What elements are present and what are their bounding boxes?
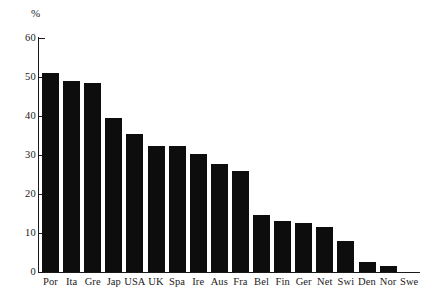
bar-ire [190, 154, 207, 272]
bar-net [316, 227, 333, 272]
y-axis-tick [39, 38, 45, 39]
y-axis-tick-label: 10 [6, 228, 36, 239]
y-axis-tick-label: 20 [6, 189, 36, 200]
plot-area: 0102030405060 PorItaGreJapUSAUKSpaIreAus… [0, 0, 430, 300]
y-axis-tick-label: 30 [6, 150, 36, 161]
bar-bel [253, 215, 270, 272]
bar-gre [84, 83, 101, 272]
y-axis-tick-label: 40 [6, 111, 36, 122]
bar-chart: % 0102030405060 PorItaGreJapUSAUKSpaIreA… [0, 0, 430, 300]
y-axis-tick-label: 50 [6, 72, 36, 83]
bar-den [359, 262, 376, 272]
bar-fra [232, 171, 249, 272]
bar-usa [126, 134, 143, 272]
bar-spa [169, 146, 186, 272]
y-axis-tick-label: 60 [6, 33, 36, 44]
bar-ita [63, 81, 80, 272]
bar-nor [380, 266, 397, 272]
x-axis-label-swe: Swe [392, 276, 426, 288]
y-axis-tick-label: 0 [6, 267, 36, 278]
x-axis-line [38, 272, 420, 273]
bar-por [42, 73, 59, 272]
bar-fin [274, 221, 291, 272]
bar-swi [337, 241, 354, 272]
bar-ger [295, 223, 312, 272]
bar-uk [148, 146, 165, 272]
y-axis-tick [39, 272, 45, 273]
bar-aus [211, 164, 228, 272]
bar-jap [105, 118, 122, 272]
